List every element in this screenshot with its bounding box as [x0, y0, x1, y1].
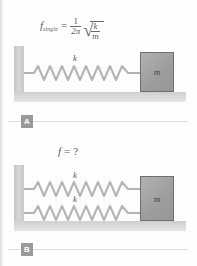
formula-a-fraction: 12π [70, 17, 81, 37]
panel-a-mass-label: m [141, 67, 173, 77]
panel-b-wall [14, 165, 24, 222]
radical-overbar [90, 21, 104, 22]
formula-a-lhs-subscript: single [43, 26, 58, 32]
panel-a-spring [24, 64, 144, 82]
panel-a-badge: A [21, 115, 33, 128]
panel-a-floor [14, 92, 186, 102]
panel-b: f=? k k m B [0, 133, 197, 266]
panel-a-spring-stiffness-label: k [73, 53, 77, 63]
panel-b-spring-1-stiffness-label: k [73, 170, 77, 180]
panel-b-badge-row: B [0, 243, 197, 259]
panel-a-wall [14, 46, 24, 93]
panel-a-mass-block: m [140, 52, 174, 92]
panel-a: fsingle=12π√km k m A [0, 0, 197, 133]
panel-b-floor [14, 221, 186, 231]
panel-b-spring-2 [24, 204, 144, 222]
panel-b-spring-2-stiffness-label: k [73, 194, 77, 204]
formula-a-fraction-denominator: 2π [70, 27, 81, 36]
radical-icon: √ [83, 20, 93, 39]
formula-a-equals: = [61, 19, 67, 31]
panel-b-spring-1 [24, 180, 144, 198]
formula-b-lhs-symbol: f [58, 145, 61, 157]
panel-a-badge-row: A [0, 115, 197, 131]
panel-b-badge: B [21, 243, 33, 256]
panel-a-divider-rule [8, 121, 188, 122]
panel-b-mass-label: m [141, 194, 173, 204]
panel-a-formula: fsingle=12π√km [40, 17, 100, 42]
page-left-edge-shadow [0, 0, 4, 266]
figure-page: fsingle=12π√km k m A f=? k [0, 0, 197, 266]
formula-b-equals: = [64, 145, 70, 157]
formula-b-unknown: ? [73, 145, 78, 157]
panel-b-mass-block: m [140, 176, 174, 221]
panel-b-formula: f=? [58, 145, 78, 157]
formula-a-radical: √km [83, 22, 100, 42]
panel-b-divider-rule [8, 249, 188, 250]
